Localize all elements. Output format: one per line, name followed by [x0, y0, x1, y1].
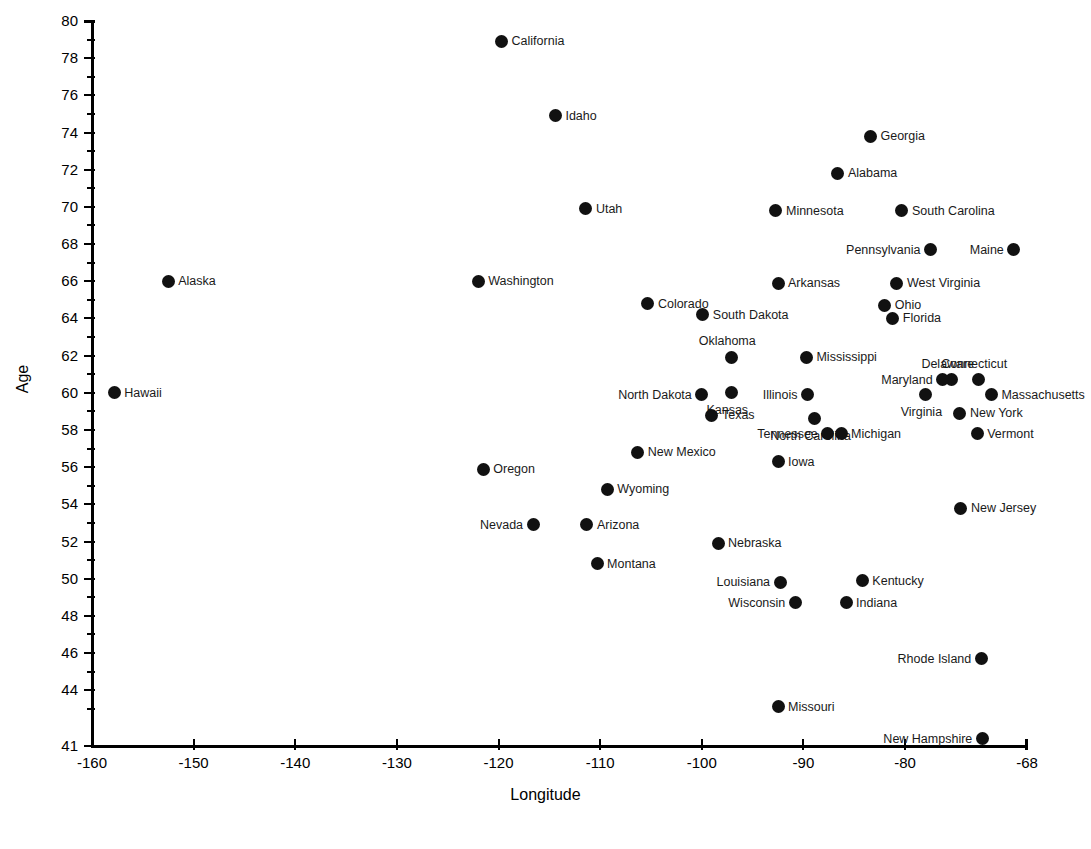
y-tick-label-wrap: 66 — [0, 273, 84, 288]
y-tick-label-wrap: 74 — [0, 125, 84, 140]
y-tick-label-wrap: 54 — [0, 496, 84, 511]
data-point[interactable] — [108, 386, 121, 399]
data-point[interactable] — [886, 312, 899, 325]
data-point[interactable] — [972, 373, 985, 386]
x-tick-label: -160 — [57, 755, 127, 770]
plot-area: 4144464850525456586062646668707274767880… — [0, 0, 1091, 800]
y-tick-minor — [87, 224, 95, 226]
data-point[interactable] — [954, 502, 967, 515]
data-point[interactable] — [579, 202, 592, 215]
data-point-label: Mississippi — [816, 351, 876, 364]
y-tick-label: 80 — [10, 13, 84, 28]
data-point[interactable] — [477, 463, 490, 476]
y-tick-major — [84, 169, 95, 171]
data-point[interactable] — [976, 732, 989, 745]
data-point-label: Washington — [488, 275, 554, 288]
x-tick-major — [498, 739, 500, 750]
data-point-label: Ohio — [895, 299, 921, 312]
data-point-label: New York — [970, 407, 1023, 420]
data-point[interactable] — [472, 275, 485, 288]
y-tick-minor — [87, 485, 95, 487]
y-tick-label-wrap: 50 — [0, 571, 84, 586]
data-point-label: Texas — [722, 409, 755, 422]
y-tick-label: 78 — [10, 50, 84, 65]
data-point[interactable] — [696, 308, 709, 321]
y-tick-label-wrap: 62 — [0, 348, 84, 363]
y-tick-minor — [87, 262, 95, 264]
data-point[interactable] — [601, 483, 614, 496]
data-point[interactable] — [895, 204, 908, 217]
data-point-label: Rhode Island — [898, 653, 972, 666]
data-point-label: New Hampshire — [883, 733, 972, 746]
data-point[interactable] — [712, 537, 725, 550]
data-point[interactable] — [789, 596, 802, 609]
data-point-label: Hawaii — [124, 387, 162, 400]
data-point[interactable] — [864, 130, 877, 143]
y-tick-major — [84, 94, 95, 96]
data-point-label: Georgia — [880, 130, 924, 143]
data-point[interactable] — [808, 412, 821, 425]
data-point[interactable] — [769, 204, 782, 217]
y-axis-title: Age — [14, 334, 32, 424]
data-point[interactable] — [840, 596, 853, 609]
y-tick-label: 70 — [10, 199, 84, 214]
data-point[interactable] — [591, 557, 604, 570]
y-tick-label-wrap: 48 — [0, 608, 84, 623]
data-point[interactable] — [801, 388, 814, 401]
data-point[interactable] — [890, 277, 903, 290]
data-point[interactable] — [985, 388, 998, 401]
data-point[interactable] — [641, 297, 654, 310]
data-point[interactable] — [856, 574, 869, 587]
data-point[interactable] — [831, 167, 844, 180]
y-tick-label: 41 — [10, 738, 84, 753]
data-point[interactable] — [772, 277, 785, 290]
data-point[interactable] — [953, 407, 966, 420]
y-tick-major — [84, 20, 95, 22]
data-point[interactable] — [971, 427, 984, 440]
y-tick-minor — [87, 633, 95, 635]
x-tick-label: -140 — [260, 755, 330, 770]
y-tick-label: 46 — [10, 645, 84, 660]
x-axis-title: Longitude — [0, 786, 1091, 804]
data-point[interactable] — [631, 446, 644, 459]
data-point[interactable] — [162, 275, 175, 288]
data-point[interactable] — [835, 427, 848, 440]
data-point[interactable] — [919, 388, 932, 401]
data-point[interactable] — [495, 35, 508, 48]
data-point[interactable] — [975, 652, 988, 665]
data-point[interactable] — [580, 518, 593, 531]
x-tick-major — [396, 739, 398, 750]
y-tick-label: 44 — [10, 682, 84, 697]
data-point-label: Nebraska — [728, 537, 782, 550]
x-tick-major — [599, 739, 601, 750]
y-tick-label-wrap: 41 — [0, 738, 84, 753]
data-point[interactable] — [695, 388, 708, 401]
data-point-label: Florida — [903, 312, 941, 325]
data-point[interactable] — [527, 518, 540, 531]
data-point[interactable] — [772, 455, 785, 468]
y-tick-label-wrap: 46 — [0, 645, 84, 660]
x-tick-label: -80 — [870, 755, 940, 770]
data-point-label: Minnesota — [786, 205, 844, 218]
y-tick-label: 54 — [10, 496, 84, 511]
data-point[interactable] — [774, 576, 787, 589]
data-point-label: Maine — [970, 244, 1004, 257]
data-point[interactable] — [800, 351, 813, 364]
data-point[interactable] — [725, 386, 738, 399]
data-point[interactable] — [725, 351, 738, 364]
data-point-label: Arkansas — [788, 277, 840, 290]
data-point[interactable] — [772, 700, 785, 713]
data-point-label: Utah — [596, 203, 622, 216]
data-point[interactable] — [705, 409, 718, 422]
data-point[interactable] — [878, 299, 891, 312]
y-tick-minor — [87, 187, 95, 189]
y-tick-major — [84, 206, 95, 208]
data-point-label: South Dakota — [713, 309, 789, 322]
data-point[interactable] — [924, 243, 937, 256]
data-point[interactable] — [549, 109, 562, 122]
y-tick-label: 68 — [10, 236, 84, 251]
y-tick-label: 52 — [10, 534, 84, 549]
y-tick-label-wrap: 70 — [0, 199, 84, 214]
data-point[interactable] — [1007, 243, 1020, 256]
y-tick-label-wrap: 52 — [0, 534, 84, 549]
